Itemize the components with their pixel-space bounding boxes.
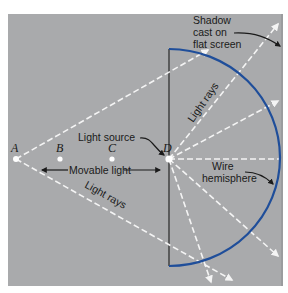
svg-text:Wire: Wire [212, 160, 234, 172]
svg-text:flat screen: flat screen [193, 38, 242, 50]
svg-text:hemisphere: hemisphere [202, 172, 257, 184]
figure-background [8, 14, 283, 286]
svg-text:cast on: cast on [193, 26, 227, 38]
svg-text:A: A [10, 141, 19, 155]
light-source-label: Light source [78, 131, 135, 143]
svg-text:C: C [108, 141, 117, 155]
hemisphere-shadow-diagram: Movable light A B C D Light source Light… [0, 0, 288, 293]
svg-text:B: B [56, 141, 64, 155]
movable-light-label: Movable light [69, 164, 131, 176]
svg-text:Shadow: Shadow [193, 14, 231, 26]
svg-text:D: D [162, 141, 172, 155]
